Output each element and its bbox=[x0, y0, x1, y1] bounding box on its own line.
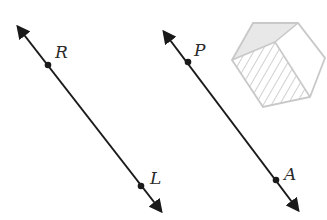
geometry-figure: R L P A bbox=[0, 0, 327, 220]
label-p: P bbox=[193, 40, 206, 60]
point-a bbox=[273, 177, 280, 184]
point-p bbox=[185, 59, 192, 66]
point-l bbox=[138, 183, 145, 190]
point-r bbox=[45, 62, 52, 69]
label-r: R bbox=[54, 42, 68, 62]
label-a: A bbox=[282, 164, 296, 184]
hexagon-icon bbox=[232, 23, 325, 107]
label-l: L bbox=[149, 168, 161, 188]
line-rl: R L bbox=[18, 27, 161, 211]
figure-svg: R L P A bbox=[0, 0, 327, 220]
